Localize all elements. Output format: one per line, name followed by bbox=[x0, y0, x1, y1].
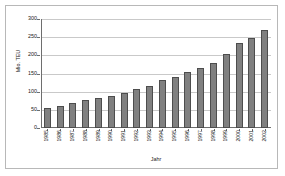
bar bbox=[133, 89, 140, 128]
x-tick-slot: 1999 bbox=[220, 129, 233, 157]
x-tick-slot: 1987 bbox=[67, 129, 80, 157]
bar bbox=[159, 80, 166, 128]
bar bbox=[210, 63, 217, 128]
x-tick-label: 1997 bbox=[198, 130, 203, 142]
bar-slot bbox=[194, 19, 207, 128]
y-tick-label: 0 bbox=[11, 125, 37, 130]
y-tick-label: 250 bbox=[11, 34, 37, 39]
x-tick-slot: 1993 bbox=[143, 129, 156, 157]
y-tick-label: 150 bbox=[11, 71, 37, 76]
bar bbox=[261, 30, 268, 128]
bar bbox=[146, 86, 153, 129]
y-tick-label: 200 bbox=[11, 53, 37, 58]
bar-slot bbox=[118, 19, 131, 128]
bar-slot bbox=[79, 19, 92, 128]
x-tick-slot: 2001 bbox=[246, 129, 259, 157]
bar bbox=[95, 98, 102, 128]
x-tick-label: 2002 bbox=[262, 130, 267, 142]
x-tick-label: 1998 bbox=[211, 130, 216, 142]
x-tick-label: 1989 bbox=[96, 130, 101, 142]
bar bbox=[82, 100, 89, 128]
bar bbox=[108, 96, 115, 128]
x-tick-label: 1986 bbox=[58, 130, 63, 142]
bar bbox=[69, 103, 76, 128]
bar bbox=[172, 77, 179, 128]
bar-series bbox=[41, 19, 271, 128]
bar bbox=[184, 72, 191, 128]
x-tick-label: 1985 bbox=[45, 130, 50, 142]
y-tick-mark bbox=[37, 110, 40, 111]
bar-slot bbox=[207, 19, 220, 128]
bar-slot bbox=[246, 19, 259, 128]
y-tick-label: 100 bbox=[11, 89, 37, 94]
x-tick-slot: 1995 bbox=[169, 129, 182, 157]
y-tick-mark bbox=[37, 55, 40, 56]
bar-slot bbox=[67, 19, 80, 128]
x-tick-slot: 1986 bbox=[54, 129, 67, 157]
bar-slot bbox=[156, 19, 169, 128]
bar-slot bbox=[105, 19, 118, 128]
x-tick-slot: 1988 bbox=[79, 129, 92, 157]
x-tick-slot: 2002 bbox=[258, 129, 271, 157]
x-tick-label: 1999 bbox=[224, 130, 229, 142]
x-tick-label: 1991 bbox=[121, 130, 126, 142]
bar bbox=[121, 93, 128, 128]
y-tick-mark bbox=[37, 74, 40, 75]
x-tick-slot: 1994 bbox=[156, 129, 169, 157]
x-tick-slot: 1997 bbox=[194, 129, 207, 157]
x-tick-label: 1992 bbox=[134, 130, 139, 142]
y-tick-mark bbox=[37, 92, 40, 93]
x-axis: 1985198619871988198919901991199219931994… bbox=[41, 129, 271, 157]
x-tick-slot: 1990 bbox=[105, 129, 118, 157]
bar-slot bbox=[182, 19, 195, 128]
x-tick-label: 1988 bbox=[83, 130, 88, 142]
bar-slot bbox=[220, 19, 233, 128]
x-tick-label: 2000 bbox=[237, 130, 242, 142]
x-tick-label: 1994 bbox=[160, 130, 165, 142]
y-tick-mark bbox=[37, 19, 40, 20]
x-tick-slot: 1992 bbox=[130, 129, 143, 157]
bar bbox=[223, 54, 230, 128]
y-tick-label: 50 bbox=[11, 107, 37, 112]
y-axis: 050100150200250300 bbox=[6, 19, 37, 128]
x-axis-title: Jahr bbox=[41, 156, 271, 162]
bar-slot bbox=[143, 19, 156, 128]
x-tick-slot: 1998 bbox=[207, 129, 220, 157]
bar-slot bbox=[41, 19, 54, 128]
y-tick-mark bbox=[37, 37, 40, 38]
bar bbox=[248, 38, 255, 128]
x-tick-label: 1995 bbox=[173, 130, 178, 142]
x-tick-label: 1987 bbox=[70, 130, 75, 142]
y-tick-mark bbox=[37, 128, 40, 129]
x-tick-slot: 1985 bbox=[41, 129, 54, 157]
x-tick-slot: 1989 bbox=[92, 129, 105, 157]
bar-slot bbox=[258, 19, 271, 128]
x-tick-label: 1990 bbox=[109, 130, 114, 142]
bar-slot bbox=[233, 19, 246, 128]
bar-slot bbox=[54, 19, 67, 128]
bar bbox=[44, 108, 51, 128]
x-tick-label: 2001 bbox=[249, 130, 254, 142]
x-tick-label: 1996 bbox=[185, 130, 190, 142]
bar-slot bbox=[92, 19, 105, 128]
chart-frame: Mio. TEU 050100150200250300 198519861987… bbox=[5, 5, 278, 169]
bar-slot bbox=[130, 19, 143, 128]
y-tick-label: 300 bbox=[11, 16, 37, 21]
x-tick-slot: 1996 bbox=[182, 129, 195, 157]
bar bbox=[57, 106, 64, 128]
x-tick-label: 1993 bbox=[147, 130, 152, 142]
x-tick-slot: 2000 bbox=[233, 129, 246, 157]
bar bbox=[236, 43, 243, 128]
x-tick-slot: 1991 bbox=[118, 129, 131, 157]
bar-slot bbox=[169, 19, 182, 128]
bar bbox=[197, 68, 204, 128]
